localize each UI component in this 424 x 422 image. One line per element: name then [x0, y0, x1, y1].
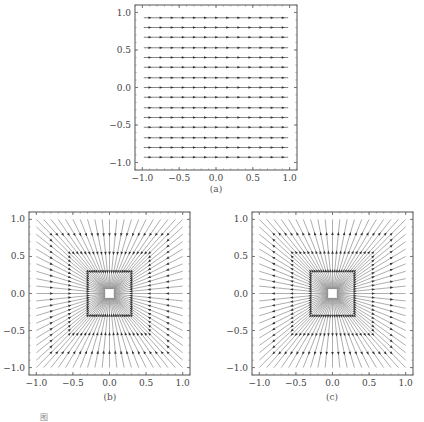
y-tick-label: 0.0 [117, 83, 132, 93]
panel-b: −1.0−0.50.00.51.0−1.0−0.50.00.51.0 [0, 205, 212, 405]
y-tick-label: −0.5 [226, 326, 248, 336]
panel-label-a: (a) [196, 184, 236, 194]
x-tick-label: 0.5 [362, 378, 377, 388]
panel-a: −1.0−0.50.00.51.0−1.0−0.50.00.51.0 [0, 0, 424, 205]
x-tick-label: 0.5 [246, 173, 261, 183]
vector-field-plot-c: −1.0−0.50.00.51.0−1.0−0.50.00.51.0 [212, 205, 424, 405]
figure-caption: 图 [40, 411, 48, 422]
x-tick-label: −1.0 [248, 378, 270, 388]
axes: −1.0−0.50.00.51.0−1.0−0.50.00.51.0 [109, 5, 297, 183]
x-tick-label: 1.0 [282, 173, 297, 183]
y-tick-label: 0.0 [234, 289, 249, 299]
x-tick-label: −0.5 [62, 378, 84, 388]
y-tick-label: 0.5 [11, 251, 26, 261]
field-lines [144, 16, 288, 158]
x-tick-label: 0.0 [209, 173, 224, 183]
x-tick-label: 1.0 [176, 378, 191, 388]
x-tick-label: 0.5 [139, 378, 154, 388]
y-tick-label: −0.5 [3, 326, 25, 336]
panel-label-b: (b) [90, 392, 130, 402]
y-tick-label: −1.0 [3, 363, 25, 373]
y-tick-label: −0.5 [109, 120, 131, 130]
y-tick-label: 1.0 [117, 8, 132, 18]
x-tick-label: −1.0 [131, 173, 153, 183]
panel-c: −1.0−0.50.00.51.0−1.0−0.50.00.51.0 [212, 205, 424, 405]
y-tick-label: 1.0 [234, 214, 249, 224]
panel-label-c: (c) [312, 392, 352, 402]
y-tick-label: 0.5 [234, 251, 249, 261]
vector-field-plot-b: −1.0−0.50.00.51.0−1.0−0.50.00.51.0 [0, 205, 212, 405]
y-tick-label: −1.0 [109, 158, 131, 168]
field-lines [36, 219, 182, 367]
vector-field-plot-a: −1.0−0.50.00.51.0−1.0−0.50.00.51.0 [0, 0, 424, 205]
x-tick-label: 1.0 [399, 378, 414, 388]
field-lines [259, 219, 405, 367]
y-tick-label: 0.0 [11, 289, 26, 299]
y-tick-label: 0.5 [117, 45, 132, 55]
x-tick-label: −0.5 [285, 378, 307, 388]
y-tick-label: 1.0 [11, 214, 26, 224]
x-tick-label: 0.0 [325, 378, 340, 388]
y-tick-label: −1.0 [226, 363, 248, 373]
x-tick-label: −0.5 [168, 173, 190, 183]
x-tick-label: −1.0 [25, 378, 47, 388]
x-tick-label: 0.0 [102, 378, 117, 388]
